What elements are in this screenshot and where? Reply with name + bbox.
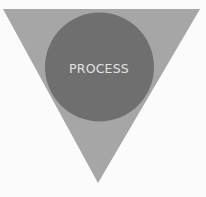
process-diagram: PROCESS — [0, 0, 206, 197]
process-label: PROCESS — [69, 61, 129, 76]
